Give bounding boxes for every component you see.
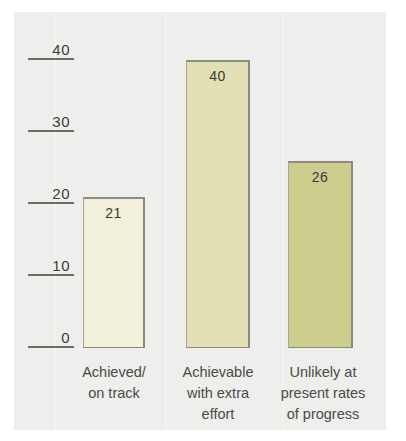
bar-value-label-2: 26 <box>289 169 351 185</box>
category-label-2-line-0: Unlikely at <box>266 362 380 383</box>
y-axis-tick-label-30: 30 <box>52 114 70 129</box>
chart-panel: 40 30 20 10 0 21 <box>14 12 386 430</box>
y-axis-tick-label-40: 40 <box>52 42 70 57</box>
bar-value-label-1: 40 <box>187 68 248 84</box>
y-axis-tick-rule-10 <box>28 274 74 276</box>
category-label-1-line-0: Achievable <box>164 362 272 383</box>
y-axis-tick-rule-0 <box>28 346 74 348</box>
plot-area: 40 30 20 10 0 21 <box>14 12 386 430</box>
x-axis-category-label-0: Achieved/ on track <box>62 362 166 404</box>
bar-value-label-0: 21 <box>84 205 143 221</box>
bar-achieved-on-track: 21 <box>83 197 145 348</box>
category-label-2-line-1: present rates <box>266 383 380 404</box>
y-axis-tick-rule-40 <box>28 58 74 60</box>
y-axis-tick-label-20: 20 <box>52 186 70 201</box>
category-label-2-line-2: of progress <box>266 404 380 425</box>
x-axis-category-label-1: Achievable with extra effort <box>164 362 272 425</box>
category-label-0-line-0: Achieved/ <box>62 362 166 383</box>
category-label-0-line-1: on track <box>62 383 166 404</box>
y-axis-tick-rule-20 <box>28 202 74 204</box>
chart-figure: 40 30 20 10 0 21 <box>0 0 406 441</box>
bar-achievable-with-extra-effort: 40 <box>186 60 250 348</box>
bar-unlikely-at-present-rates-of-progress: 26 <box>288 161 353 348</box>
y-axis-tick-rule-30 <box>28 130 74 132</box>
x-axis-category-label-2: Unlikely at present rates of progress <box>266 362 380 425</box>
category-label-1-line-1: with extra <box>164 383 272 404</box>
category-label-1-line-2: effort <box>164 404 272 425</box>
y-axis-tick-label-0: 0 <box>61 330 70 345</box>
y-axis-tick-label-10: 10 <box>52 258 70 273</box>
